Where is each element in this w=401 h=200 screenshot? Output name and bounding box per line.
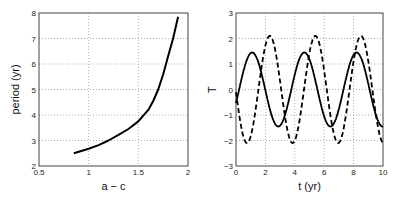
x-tick-label: 8 xyxy=(351,168,356,177)
y-tick-label: 0 xyxy=(229,86,234,95)
y-axis-label: period (yr) xyxy=(9,64,21,114)
y-tick-label: 2 xyxy=(229,35,234,44)
x-tick-label: 2 xyxy=(186,168,191,177)
x-tick-label: 0 xyxy=(234,168,239,177)
y-tick-label: −1 xyxy=(224,111,234,120)
x-axis-label: t (yr) xyxy=(298,180,321,192)
y-tick-label: 3 xyxy=(229,9,234,18)
x-tick-label: 1.5 xyxy=(133,168,145,177)
y-tick-label: 6 xyxy=(32,60,37,69)
y-tick-label: 5 xyxy=(32,86,37,95)
y-tick-label: −2 xyxy=(224,137,234,146)
x-axis-label: a − c xyxy=(101,180,126,192)
temperature-vs-time-chart: 0246810−3−2−10123t (yr)T xyxy=(206,9,388,192)
x-tick-label: 1 xyxy=(86,168,91,177)
y-tick-label: 4 xyxy=(32,111,37,120)
x-tick-label: 10 xyxy=(379,168,388,177)
period-curve xyxy=(74,17,178,154)
figure: 0.511.522345678a − cperiod (yr) 0246810−… xyxy=(0,0,401,200)
dashed-series-line xyxy=(236,36,383,143)
y-axis-label: T xyxy=(206,86,218,93)
x-tick-label: 6 xyxy=(322,168,327,177)
x-tick-label: 2 xyxy=(263,168,268,177)
y-tick-label: 2 xyxy=(32,162,37,171)
period-vs-a-minus-c-chart: 0.511.522345678a − cperiod (yr) xyxy=(9,9,191,192)
x-tick-label: 4 xyxy=(293,168,298,177)
y-tick-label: −3 xyxy=(224,162,234,171)
y-tick-label: 7 xyxy=(32,35,37,44)
y-tick-label: 3 xyxy=(32,137,37,146)
y-tick-label: 1 xyxy=(229,60,234,69)
y-tick-label: 8 xyxy=(32,9,37,18)
